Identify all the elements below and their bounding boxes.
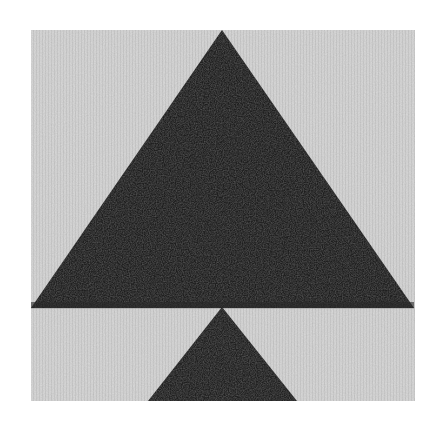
quilt-photo xyxy=(0,0,440,428)
quilt-illustration xyxy=(0,0,440,428)
